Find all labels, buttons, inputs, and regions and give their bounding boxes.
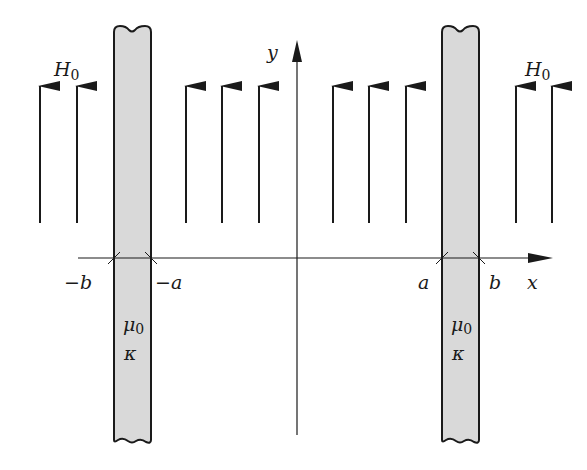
right-slab <box>442 26 479 443</box>
y-axis <box>292 40 302 435</box>
field-label-left: H0 <box>53 58 80 83</box>
right-slab-conductivity: κ <box>451 342 465 364</box>
x-axis-arrow-icon <box>528 253 553 263</box>
left-slab-conductivity: κ <box>123 342 137 364</box>
x-axis-label: x <box>527 271 538 293</box>
y-axis-arrow-icon <box>292 40 302 62</box>
field-label-right: H0 <box>524 58 551 83</box>
tick-label-b: b <box>489 271 501 293</box>
diagram-canvas: H0 H0 y x −b −a a b μ0 κ μ0 κ <box>0 0 587 470</box>
left-slab <box>114 26 151 443</box>
tick-label-minus-b: −b <box>64 271 92 293</box>
tick-label-a: a <box>418 271 429 293</box>
y-axis-label: y <box>266 41 278 63</box>
tick-label-minus-a: −a <box>155 271 182 293</box>
